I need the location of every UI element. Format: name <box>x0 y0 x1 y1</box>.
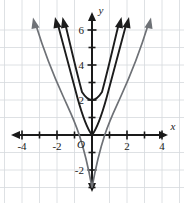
x-axis-arrow-left <box>11 131 20 139</box>
coordinate-plane-svg: -4 -2 2 4 6 4 2 -2 O x y <box>0 0 184 203</box>
curve-arrow-right-2 <box>123 17 131 29</box>
x-tick-label: -4 <box>17 140 27 152</box>
y-tick-label: 2 <box>79 94 85 106</box>
y-axis-arrow-up <box>88 12 96 21</box>
y-tick-label: 6 <box>79 24 85 36</box>
x-tick-label: 2 <box>124 140 130 152</box>
origin-label: O <box>77 138 85 150</box>
y-tick-label: -2 <box>75 164 84 176</box>
curve-arrow-left-2 <box>54 17 62 29</box>
curve-arrow-left-1 <box>61 17 69 29</box>
curve-arrow-left-3 <box>32 18 40 30</box>
x-axis-arrow-right <box>159 131 168 139</box>
parabola-graph-figure: -4 -2 2 4 6 4 2 -2 O x y <box>0 0 184 203</box>
x-axis-label: x <box>170 120 176 132</box>
y-axis <box>88 12 97 192</box>
curve-arrow-right-1 <box>115 17 123 29</box>
curve-arrow-right-3 <box>145 18 153 30</box>
x-tick-label: -2 <box>52 140 61 152</box>
x-tick-label: 4 <box>159 140 165 152</box>
y-tick-label: 4 <box>79 59 85 71</box>
y-axis-label: y <box>98 4 104 16</box>
